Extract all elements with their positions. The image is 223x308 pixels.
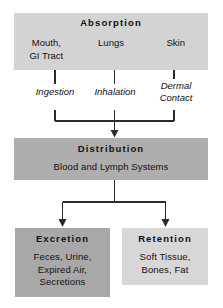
absorption-box: Absorption Mouth, GI Tract Lungs Skin [14,13,208,70]
absorption-title: Absorption [80,18,142,28]
route-label-inhalation: Inhalation [87,86,143,98]
retention-body: Soft Tissue, Bones, Fat [140,251,191,275]
retention-title: Retention [138,234,192,244]
arrowhead-into-retention [162,219,170,227]
excretion-title: Excretion [36,234,89,244]
absorption-entry-lungs: Lungs [79,37,144,62]
distribution-body: Blood and Lymph Systems [54,161,169,173]
excretion-box: Excretion Feces, Urine, Expired Air, Sec… [15,228,110,297]
absorption-entry-mouth-gi-tract: Mouth, GI Tract [14,37,79,62]
arrowhead-into-distribution [111,130,119,138]
absorption-entry-points: Mouth, GI Tract Lungs Skin [14,37,208,62]
route-label-ingestion: Ingestion [27,86,83,98]
route-label-dermal-contact: Dermal Contact [148,80,204,103]
absorption-entry-skin: Skin [143,37,208,62]
arrowhead-into-excretion [59,219,67,227]
retention-box: Retention Soft Tissue, Bones, Fat [122,228,208,285]
distribution-box: Distribution Blood and Lymph Systems [14,138,208,180]
distribution-title: Distribution [78,144,145,154]
toxicokinetics-diagram: Absorption Mouth, GI Tract Lungs Skin In… [0,0,223,308]
excretion-body: Feces, Urine, Expired Air, Secretions [34,251,92,287]
